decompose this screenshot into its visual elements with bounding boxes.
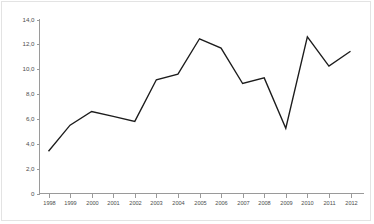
x-axis-tick-label: 2006 [215,200,227,206]
x-axis-tick-label: 2004 [172,200,184,206]
x-axis-tick-label: 2007 [237,200,249,206]
y-axis-tick-labels: 14,012,010,08,06,04,02,00 [22,16,35,197]
x-axis: 1998199920002001200220032004200520062007… [40,194,365,206]
x-axis-tick-label: 1999 [64,200,76,206]
y-axis-tick-label: 4,0 [26,140,35,147]
line-chart-figure: 14,012,010,08,06,04,02,00 19981999200020… [0,0,374,224]
y-axis-tick-label: 12,0 [22,40,35,47]
x-axis-tick-label: 2005 [194,200,206,206]
x-axis-tick-label: 2012 [345,200,357,206]
x-axis-tick-label: 2003 [150,200,162,206]
y-axis-tick-label: 14,0 [22,16,35,23]
x-axis-tick-label: 2002 [129,200,141,206]
y-axis: 14,012,010,08,06,04,02,00 [22,16,39,197]
x-axis-tick-label: 1998 [43,200,55,206]
chart-plot-area: 14,012,010,08,06,04,02,00 19981999200020… [0,0,374,224]
x-axis-ticks [50,194,352,198]
x-axis-tick-label: 2011 [323,200,335,206]
data-series-line [49,37,351,151]
x-axis-tick-label: 2009 [280,200,292,206]
x-axis-tick-label: 2010 [301,200,313,206]
x-axis-tick-label: 2008 [258,200,270,206]
y-axis-tick-label: 8,0 [26,90,35,97]
y-axis-tick-label: 0 [31,190,35,197]
x-axis-tick-label: 2001 [107,200,119,206]
y-axis-tick-label: 10,0 [22,65,35,72]
x-axis-tick-labels: 1998199920002001200220032004200520062007… [43,200,357,206]
x-axis-tick-label: 2000 [86,200,98,206]
y-axis-tick-label: 6,0 [26,115,35,122]
y-axis-tick-label: 2,0 [26,165,35,172]
